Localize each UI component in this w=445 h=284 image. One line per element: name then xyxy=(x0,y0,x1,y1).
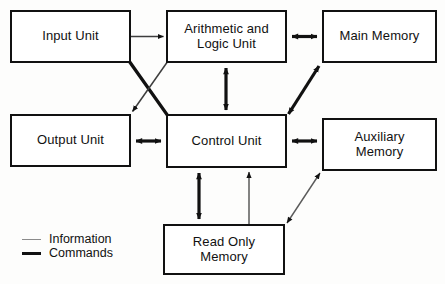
legend: Information Commands xyxy=(22,232,113,260)
node-output-unit-label: Output Unit xyxy=(35,133,106,148)
node-arithmetic-and-logic-unit[interactable]: Arithmetic and Logic Unit xyxy=(166,10,287,63)
legend-item-information-label: Information xyxy=(49,232,112,246)
node-read-only-memory[interactable]: Read Only Memory xyxy=(163,224,285,275)
connector-rom-to-auxiliary xyxy=(287,173,320,223)
connector-alu-to-output xyxy=(133,61,169,112)
node-auxiliary-memory-label: Auxiliary Memory xyxy=(352,130,406,159)
node-read-only-memory-label: Read Only Memory xyxy=(191,235,257,264)
node-main-memory-label: Main Memory xyxy=(338,29,422,44)
node-auxiliary-memory[interactable]: Auxiliary Memory xyxy=(322,118,437,171)
node-main-memory[interactable]: Main Memory xyxy=(322,10,437,63)
node-input-unit[interactable]: Input Unit xyxy=(10,10,131,63)
legend-item-commands-label: Commands xyxy=(49,246,113,260)
commands-line-icon xyxy=(22,252,41,255)
node-input-unit-label: Input Unit xyxy=(40,29,101,44)
legend-item-information: Information xyxy=(22,232,113,246)
information-line-icon xyxy=(22,239,41,240)
node-output-unit[interactable]: Output Unit xyxy=(10,114,131,167)
node-control-unit[interactable]: Control Unit xyxy=(166,114,287,168)
node-arithmetic-and-logic-unit-label: Arithmetic and Logic Unit xyxy=(182,22,271,51)
diagram-canvas: Input Unit Arithmetic and Logic Unit Mai… xyxy=(0,0,445,284)
node-control-unit-label: Control Unit xyxy=(190,134,264,149)
connector-control-to-main-memory xyxy=(289,66,320,114)
legend-item-commands: Commands xyxy=(22,246,113,260)
